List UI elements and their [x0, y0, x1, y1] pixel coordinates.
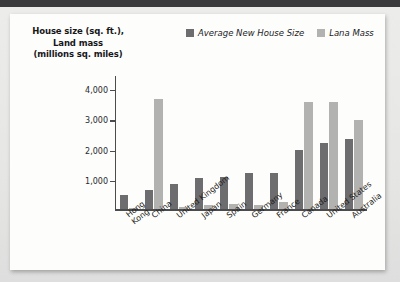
y-axis-tick [110, 151, 115, 152]
legend-item-1: Lana Mass [317, 28, 374, 38]
y-axis-tick-label: 2,000 [85, 146, 108, 155]
top-dark-band [0, 0, 400, 7]
bar-groups [116, 76, 366, 209]
legend-item-0: Average New House Size [186, 28, 304, 38]
bar-group [291, 76, 316, 209]
y-axis-tick [110, 181, 115, 182]
bar-land-mass [329, 102, 338, 209]
chart-card: House size (sq. ft.), Land mass (million… [10, 14, 385, 270]
legend-swatch-icon [317, 29, 325, 37]
y-axis-tick [110, 120, 115, 121]
plot-area [115, 76, 367, 211]
bar-group [316, 76, 341, 209]
y-axis-tick [110, 90, 115, 91]
bar-group [141, 76, 166, 209]
bar-group [216, 76, 241, 209]
bar-group [116, 76, 141, 209]
bar-house-size [120, 195, 129, 210]
bar-group [166, 76, 191, 209]
y-axis-tick-label: 1,000 [85, 176, 108, 185]
y-axis-title-line-1: House size (sq. ft.), [22, 26, 134, 38]
chart-legend: Average New House SizeLana Mass [186, 28, 374, 38]
legend-label: Average New House Size [198, 28, 304, 38]
y-axis-tick-label: 3,000 [85, 116, 108, 125]
y-axis-title-line-2: Land mass [22, 38, 134, 50]
legend-swatch-icon [186, 29, 194, 37]
y-axis-title-line-3: (millions sq. miles) [22, 49, 134, 61]
bar-group [241, 76, 266, 209]
y-axis-tick-label: 4,000 [85, 86, 108, 95]
bar-land-mass [154, 99, 163, 209]
y-axis-title: House size (sq. ft.), Land mass (million… [22, 26, 134, 61]
y-axis-tick-labels: 1,0002,0003,0004,000 [65, 76, 108, 211]
bar-land-mass [304, 102, 313, 209]
legend-label: Lana Mass [329, 28, 374, 38]
